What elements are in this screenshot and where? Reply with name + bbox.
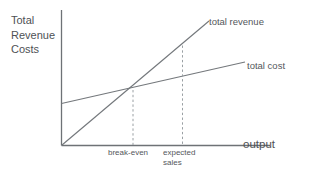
expected-sales-label: expected sales (163, 148, 195, 168)
total-revenue-label: total revenue (209, 16, 264, 28)
total-cost-label: total cost (247, 60, 285, 72)
break-even-label: break-even (108, 148, 148, 158)
total-revenue-line (62, 21, 209, 145)
break-even-chart: Total Revenue Costs output total revenue… (0, 0, 316, 175)
y-axis-label: Total Revenue Costs (11, 13, 55, 57)
x-axis-label: output (243, 137, 275, 151)
